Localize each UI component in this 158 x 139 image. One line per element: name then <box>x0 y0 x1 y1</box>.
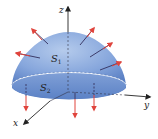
normal-arrow <box>103 43 112 49</box>
x-axis-label: x <box>13 118 18 128</box>
paraboloid-diagram: z y x S1 S2 <box>0 0 158 139</box>
normal-arrow <box>87 28 94 37</box>
base-disk-s2 <box>12 73 126 99</box>
y-axis <box>125 95 150 97</box>
y-axis-label: y <box>143 100 150 110</box>
normal-arrow <box>32 29 42 40</box>
x-axis <box>24 101 50 124</box>
z-axis-label: z <box>58 5 64 15</box>
